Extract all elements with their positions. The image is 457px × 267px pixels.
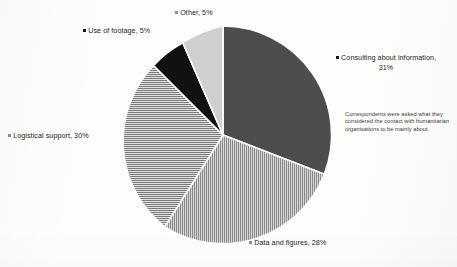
pie-label-other-text: Other, 5%: [180, 8, 212, 17]
bullet-marker-icon: [83, 29, 86, 32]
chart-annotation-note: Correspondents were asked what they cons…: [345, 111, 451, 133]
bullet-marker-icon: [249, 241, 252, 244]
pie-label-other: Other, 5%: [175, 8, 213, 18]
bullet-marker-icon: [175, 11, 178, 14]
pie-label-consulting-about-information: Consulting about information, 31%: [326, 53, 446, 72]
pie-label-data-and-figures-text: Data and figures, 28%: [254, 238, 326, 247]
pie-label-use-of-footage: Use of footage, 5%: [83, 26, 150, 36]
bullet-marker-icon: [8, 134, 11, 137]
bullet-marker-icon: [336, 56, 339, 59]
pie-label-logistical-support: Logistical support, 30%: [8, 131, 89, 141]
pie-label-consulting-text: Consulting about information,: [341, 53, 436, 62]
pie-label-logistical-support-text: Logistical support, 30%: [13, 131, 88, 140]
pie-label-consulting-value: 31%: [326, 63, 446, 73]
pie-label-use-of-footage-text: Use of footage, 5%: [88, 26, 150, 35]
pie-chart-figure: Consulting about information, 31% Other,…: [0, 0, 457, 267]
pie-label-data-and-figures: Data and figures, 28%: [249, 238, 326, 248]
